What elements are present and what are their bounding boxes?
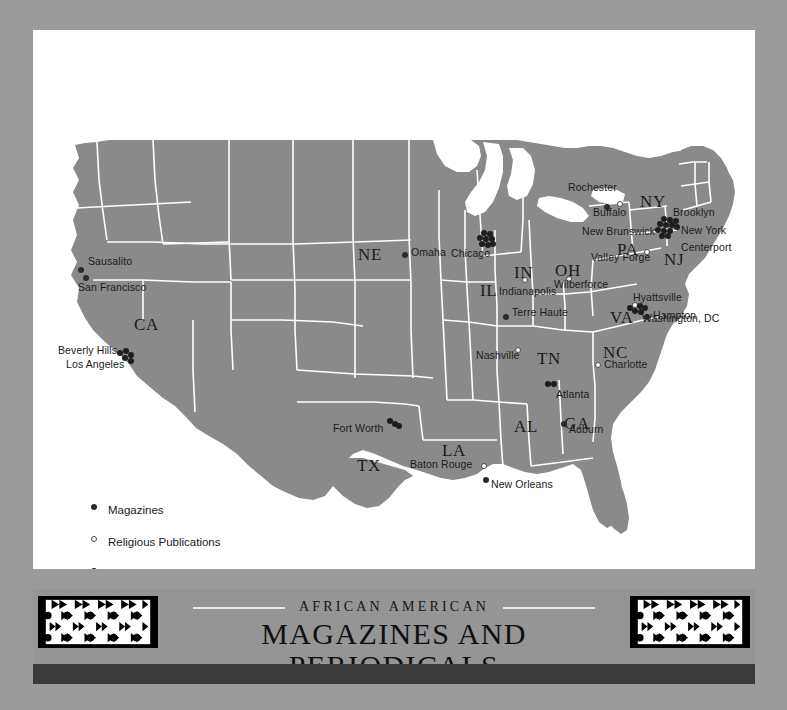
city-label-new-orleans: New Orleans <box>491 479 553 490</box>
state-label-la: LA <box>442 442 466 459</box>
city-label-san-francisco: San Francisco <box>78 282 146 293</box>
city-label-nashville: Nashville <box>476 350 520 361</box>
city-label-valley-forge: Valley Forge <box>591 252 650 263</box>
city-label-beverly-hills: Beverly Hills <box>58 345 117 356</box>
city-label-new-york: New York <box>681 225 726 236</box>
city-label-new-brunswick: New Brunswick <box>582 226 655 237</box>
city-label-terre-haute: Terre Haute <box>512 307 568 318</box>
city-label-washington-dc: Washington, DC <box>642 313 719 324</box>
banner-rule-right <box>503 607 595 609</box>
marker-new-orleans[interactable] <box>483 477 489 483</box>
marker-omaha[interactable] <box>402 252 408 258</box>
city-label-fort-worth: Fort Worth <box>333 423 383 434</box>
city-label-buffalo: Buffalo <box>593 207 626 218</box>
banner-footer-bar <box>33 664 755 684</box>
city-label-indianapolis: Indianapolis <box>499 286 556 297</box>
state-label-il: IL <box>480 282 497 299</box>
marker-cluster-new-york[interactable] <box>655 216 681 240</box>
poster: CA TX NE IL IN OH LA AL GA TN NC VA PA N… <box>0 0 787 710</box>
legend-religious-label: Religious Publications <box>108 536 221 548</box>
state-label-ca: CA <box>134 316 159 333</box>
marker-auburn[interactable] <box>561 421 567 427</box>
us-landmass <box>71 140 735 534</box>
marker-sausalito[interactable] <box>78 267 84 273</box>
marker-baton-rouge[interactable] <box>481 463 487 469</box>
city-label-los-angeles: Los Angeles <box>66 359 124 370</box>
state-label-nj: NJ <box>664 251 684 268</box>
kente-pattern-left-icon <box>38 596 158 648</box>
city-label-hyattsville: Hyattsville <box>633 292 682 303</box>
title-banner: AFRICAN AMERICAN MAGAZINES AND PERIODICA… <box>33 589 755 664</box>
state-label-ny: NY <box>640 193 666 210</box>
legend-association-marker-icon <box>91 568 97 569</box>
state-label-tx: TX <box>357 457 381 474</box>
banner-supertitle-wrap: AFRICAN AMERICAN <box>285 599 503 615</box>
city-label-charlotte: Charlotte <box>604 359 648 370</box>
banner-rule-left <box>193 607 285 609</box>
kente-pattern-right-icon <box>630 596 750 648</box>
legend-magazines-label: Magazines <box>108 504 164 516</box>
city-label-rochester: Rochester <box>568 182 617 193</box>
city-label-baton-rouge: Baton Rouge <box>410 459 472 470</box>
city-label-chicago: Chicago <box>451 248 490 259</box>
state-label-ne: NE <box>358 246 382 263</box>
state-label-tn: TN <box>537 350 561 367</box>
state-label-al: AL <box>514 418 538 435</box>
city-label-omaha: Omaha <box>411 247 446 258</box>
marker-charlotte[interactable] <box>595 362 601 368</box>
legend-item-association: Association, Professional, and Collegiat… <box>88 564 257 569</box>
legend-item-religious: Religious Publications <box>88 532 257 550</box>
city-label-atlanta: Atlanta <box>556 389 589 400</box>
legend-item-magazines: Magazines <box>88 500 257 518</box>
legend: Magazines Religious Publications Associa… <box>88 500 257 569</box>
legend-association-line1: Association, Professional, <box>108 568 240 569</box>
legend-magazines-marker-icon <box>91 504 97 510</box>
marker-indianapolis[interactable] <box>522 277 528 283</box>
city-label-auburn: Auburn <box>569 424 603 435</box>
marker-terre-haute[interactable] <box>503 314 509 320</box>
city-label-centerport: Centerport <box>681 242 732 253</box>
city-label-brooklyn: Brooklyn <box>673 207 715 218</box>
legend-religious-marker-icon <box>91 536 97 542</box>
map-panel: CA TX NE IL IN OH LA AL GA TN NC VA PA N… <box>33 30 755 569</box>
legend-association-label: Association, Professional, and Collegiat… <box>108 568 257 569</box>
banner-supertitle: AFRICAN AMERICAN <box>299 599 489 614</box>
city-label-wilberforce: Wilberforce <box>554 279 608 290</box>
city-label-sausalito: Sausalito <box>88 256 132 267</box>
marker-cluster-fort-worth[interactable] <box>387 418 401 430</box>
